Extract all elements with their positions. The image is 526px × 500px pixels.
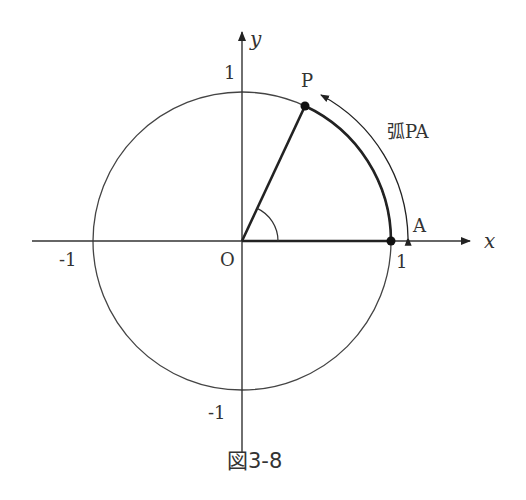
arc-length-arrow <box>321 95 408 238</box>
angle-mark <box>257 208 278 241</box>
x-tick-1: 1 <box>396 251 407 272</box>
arc-pa-label: 弧PA <box>387 121 429 142</box>
point-p-label: P <box>301 70 313 91</box>
y-axis-label: y <box>249 27 262 51</box>
point-a-dot <box>387 237 396 246</box>
y-tick-1: 1 <box>224 62 235 83</box>
unit-circle-diagram: y x O 1 -1 -1 1 P A 弧PA 図3-8 <box>0 0 526 500</box>
point-p-dot <box>301 102 310 111</box>
x-axis-label: x <box>484 229 495 253</box>
x-tick-neg1: -1 <box>59 249 77 270</box>
figure-caption: 図3-8 <box>227 449 282 473</box>
origin-label: O <box>220 249 235 270</box>
arc-pa <box>305 106 391 241</box>
point-a-label: A <box>412 215 427 236</box>
radius-op <box>242 106 305 241</box>
y-tick-neg1: -1 <box>208 402 226 423</box>
